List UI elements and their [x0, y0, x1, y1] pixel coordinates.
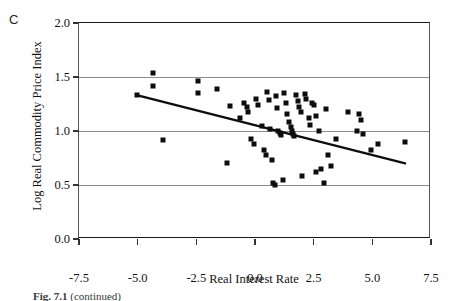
x-tick-mark [430, 239, 431, 245]
x-tick-mark [196, 239, 197, 245]
x-tick-mark [254, 239, 255, 245]
figure-caption: Fig. 7.1 (continued) [33, 290, 333, 301]
y-axis-title: Log Real Commodity Price Index [28, 18, 46, 234]
y-tick-label: 2.0 [54, 16, 70, 31]
y-tick-label: 1.0 [54, 124, 70, 139]
x-tick-mark [372, 239, 373, 245]
y-tick-label: 1.5 [54, 70, 70, 85]
trend-line-segment [138, 95, 406, 163]
y-tick-label: 0.5 [54, 178, 70, 193]
figure-panel-c: C Log Real Commodity Price Index 0.00.51… [0, 0, 452, 301]
x-tick-mark [78, 239, 79, 245]
caption-text: (continued) [70, 290, 121, 301]
x-tick-mark [137, 239, 138, 245]
x-tick-mark [313, 239, 314, 245]
caption-prefix: Fig. 7.1 [33, 290, 68, 301]
y-tick-label: 0.0 [54, 232, 70, 247]
x-axis-title: Real Interest Rate [78, 272, 430, 287]
plot-area: 0.00.51.01.52.0 -7.5-5.0-2.50.02.55.07.5 [78, 22, 430, 238]
trend-line [79, 23, 431, 239]
panel-label: C [9, 12, 18, 27]
